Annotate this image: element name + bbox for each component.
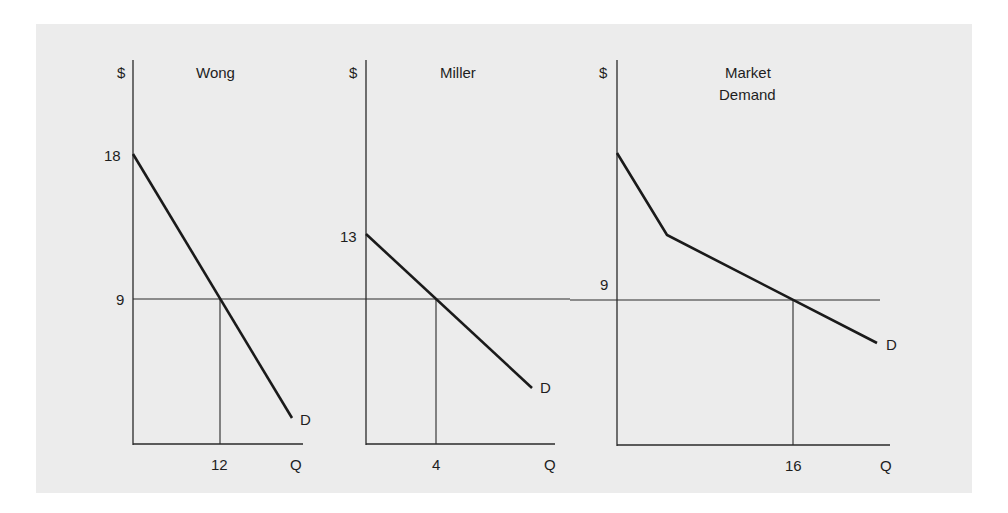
miller-chart: $ Miller 13 4 Q D: [340, 60, 570, 473]
miller-x-axis-label: Q: [544, 456, 556, 473]
wong-title: Wong: [196, 64, 235, 81]
market-chart: $ Market Demand 9 16 Q D: [570, 60, 897, 474]
market-curve-label: D: [886, 336, 897, 353]
wong-x-axis-label: Q: [290, 456, 302, 473]
wong-y-tick-18: 18: [104, 147, 121, 164]
miller-x-tick-4: 4: [432, 456, 440, 473]
wong-y-axis-label: $: [117, 64, 126, 81]
market-x-axis-label: Q: [880, 457, 892, 474]
wong-x-tick-12: 12: [211, 456, 228, 473]
market-y-tick-9: 9: [600, 276, 608, 293]
wong-chart: $ Wong 18 9 12 Q D: [104, 60, 366, 473]
miller-y-tick-13: 13: [340, 228, 357, 245]
market-x-tick-16: 16: [785, 457, 802, 474]
market-title-line2: Demand: [719, 86, 776, 103]
wong-curve-label: D: [300, 411, 311, 428]
wong-demand-curve: [133, 154, 292, 418]
miller-demand-curve: [366, 234, 532, 388]
miller-curve-label: D: [540, 379, 551, 396]
demand-charts: $ Wong 18 9 12 Q D $ Miller 13 4 Q D $ M…: [0, 0, 1008, 513]
wong-y-tick-9: 9: [116, 291, 124, 308]
market-demand-curve: [617, 153, 877, 343]
market-title-line1: Market: [725, 64, 772, 81]
miller-title: Miller: [440, 64, 476, 81]
miller-y-axis-label: $: [349, 64, 358, 81]
market-y-axis-label: $: [599, 64, 608, 81]
